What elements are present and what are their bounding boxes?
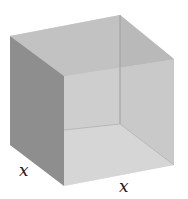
depth-label: x bbox=[19, 162, 29, 179]
width-label: x bbox=[119, 178, 129, 195]
cube-diagram: x x bbox=[0, 0, 188, 199]
front-face bbox=[64, 59, 174, 186]
